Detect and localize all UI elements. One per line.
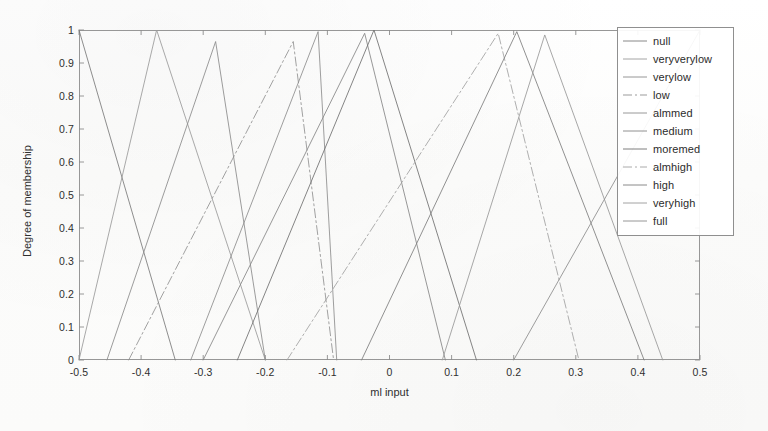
legend-item-label: verylow [653, 71, 691, 83]
x-tick-label: -0.2 [256, 366, 275, 378]
membership-curve-verylow [107, 42, 265, 360]
legend-item-verylow[interactable]: verylow [618, 68, 733, 86]
legend-item-high[interactable]: high [618, 176, 733, 194]
membership-curve-moremed [237, 30, 476, 360]
legend-item-label: moremed [653, 143, 700, 155]
x-tick-label: -0.1 [318, 366, 337, 378]
membership-curve-high [362, 32, 645, 360]
legend-line-swatch [622, 180, 648, 190]
legend-line-swatch [622, 54, 648, 64]
membership-curve-almmed [191, 32, 337, 360]
y-axis-tick-labels: 00.10.20.30.40.50.60.70.80.91 [40, 30, 74, 360]
y-tick-label: 0.4 [59, 222, 74, 234]
plot-area [79, 30, 700, 360]
x-tick-label: 0 [387, 366, 393, 378]
y-axis-title: Degree of membership [21, 116, 33, 286]
legend-item-label: full [653, 215, 667, 227]
legend-line-swatch [622, 126, 648, 136]
legend-line-swatch [622, 144, 648, 154]
x-tick-label: -0.3 [194, 366, 213, 378]
x-tick-label: 0.5 [693, 366, 708, 378]
y-tick-label: 0.1 [59, 321, 74, 333]
legend-item-veryhigh[interactable]: veryhigh [618, 194, 733, 212]
x-axis-title: ml input [79, 386, 700, 398]
legend-box[interactable]: nullveryverylowverylowlowalmmedmediummor… [617, 27, 734, 236]
legend-line-swatch [622, 198, 648, 208]
y-tick-label: 0 [68, 354, 74, 366]
x-tick-label: -0.5 [70, 366, 89, 378]
x-tick-label: -0.4 [132, 366, 151, 378]
membership-curve-null [79, 30, 175, 360]
legend-item-label: null [653, 35, 671, 47]
figure-canvas: 00.10.20.30.40.50.60.70.80.91 -0.5-0.4-0… [0, 0, 768, 431]
y-tick-label: 0.6 [59, 156, 74, 168]
legend-item-almhigh[interactable]: almhigh [618, 158, 733, 176]
x-tick-label: 0.1 [444, 366, 459, 378]
legend-line-swatch [622, 90, 648, 100]
legend-item-label: high [653, 179, 674, 191]
x-axis-tick-labels: -0.5-0.4-0.3-0.2-0.100.10.20.30.40.5 [79, 366, 700, 382]
y-tick-label: 0.2 [59, 288, 74, 300]
x-tick-label: 0.2 [506, 366, 521, 378]
legend-item-almmed[interactable]: almmed [618, 104, 733, 122]
legend-item-label: medium [653, 125, 693, 137]
legend-item-medium[interactable]: medium [618, 122, 733, 140]
legend-item-full[interactable]: full [618, 212, 733, 230]
y-tick-label: 0.8 [59, 90, 74, 102]
legend-item-veryverylow[interactable]: veryverylow [618, 50, 733, 68]
legend-item-label: almmed [653, 107, 693, 119]
membership-curve-veryverylow [79, 30, 265, 360]
x-tick-label: 0.3 [568, 366, 583, 378]
y-tick-label: 0.9 [59, 57, 74, 69]
y-tick-label: 0.5 [59, 189, 74, 201]
legend-item-null[interactable]: null [618, 32, 733, 50]
x-tick-label: 0.4 [630, 366, 645, 378]
legend-item-low[interactable]: low [618, 86, 733, 104]
legend-item-label: veryhigh [653, 197, 695, 209]
legend-line-swatch [622, 108, 648, 118]
y-tick-label: 0.7 [59, 123, 74, 135]
legend-line-swatch [622, 36, 648, 46]
legend-line-swatch [622, 216, 648, 226]
y-tick-label: 1 [68, 24, 74, 36]
legend-item-moremed[interactable]: moremed [618, 140, 733, 158]
legend-line-swatch [622, 72, 648, 82]
y-tick-label: 0.3 [59, 255, 74, 267]
legend-item-label: low [653, 89, 670, 101]
membership-curves [79, 30, 700, 360]
legend-line-swatch [622, 162, 648, 172]
legend-item-label: almhigh [653, 161, 692, 173]
legend-item-label: veryverylow [653, 53, 712, 65]
